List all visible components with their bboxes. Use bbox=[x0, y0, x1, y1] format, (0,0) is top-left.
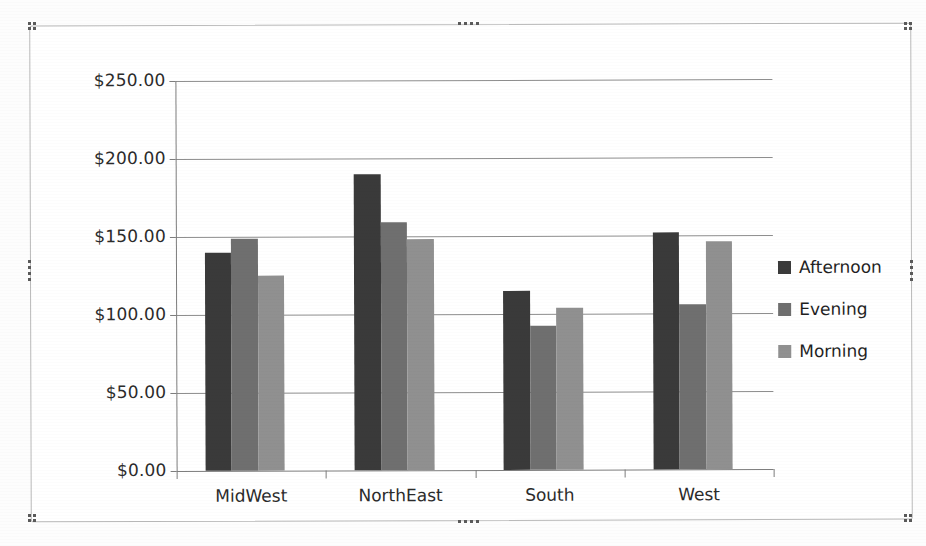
bar[interactable] bbox=[652, 232, 679, 469]
y-axis-tick-label: $50.00 bbox=[44, 382, 166, 402]
handle-dot bbox=[33, 22, 36, 25]
handle-dot bbox=[476, 520, 479, 523]
bar[interactable] bbox=[231, 238, 258, 471]
bar[interactable] bbox=[679, 304, 706, 469]
legend-item[interactable]: Morning bbox=[778, 330, 908, 372]
legend-swatch-icon bbox=[778, 344, 791, 357]
x-axis-category-label: NorthEast bbox=[326, 485, 475, 505]
handle-dot bbox=[28, 272, 31, 275]
gridline bbox=[176, 235, 773, 238]
handle-dot bbox=[28, 260, 31, 263]
handle-dot bbox=[909, 22, 912, 25]
x-axis-tick bbox=[624, 470, 625, 478]
handle-dot bbox=[909, 519, 912, 522]
handle-dot bbox=[470, 22, 473, 25]
y-axis-tick-label: $0.00 bbox=[45, 460, 167, 480]
handle-dot bbox=[910, 272, 913, 275]
legend-item-label: Evening bbox=[799, 299, 867, 319]
handle-dot bbox=[909, 514, 912, 517]
gridlines bbox=[175, 79, 772, 81]
y-axis-tick-label: $150.00 bbox=[44, 226, 166, 246]
handle-dot bbox=[458, 22, 461, 25]
x-axis-tick bbox=[475, 470, 476, 478]
bar[interactable] bbox=[530, 326, 557, 470]
handle-dot bbox=[470, 520, 473, 523]
handle-dot bbox=[33, 27, 36, 30]
handle-dot bbox=[28, 22, 31, 25]
x-axis-category-label: MidWest bbox=[177, 485, 326, 505]
y-axis-tick bbox=[170, 237, 176, 238]
bar[interactable] bbox=[706, 241, 733, 469]
chart-object[interactable]: $0.00$50.00$100.00$150.00$200.00$250.00 … bbox=[29, 23, 913, 523]
handle-dot bbox=[464, 22, 467, 25]
handle-dot bbox=[904, 519, 907, 522]
legend-item-label: Afternoon bbox=[799, 257, 882, 277]
legend-swatch-icon bbox=[778, 260, 791, 273]
handle-dot bbox=[28, 266, 31, 269]
x-axis-tick bbox=[774, 469, 775, 477]
bar[interactable] bbox=[503, 290, 530, 469]
handle-dot bbox=[904, 27, 907, 30]
plot-area: $0.00$50.00$100.00$150.00$200.00$250.00 … bbox=[175, 79, 773, 471]
legend-item[interactable]: Evening bbox=[778, 288, 908, 330]
handle-dot bbox=[476, 22, 479, 25]
legend-item-label: Morning bbox=[799, 341, 868, 361]
handle-dot bbox=[910, 260, 913, 263]
handle-dot bbox=[33, 514, 36, 517]
bar[interactable] bbox=[380, 222, 407, 470]
handle-dot bbox=[28, 278, 31, 281]
gridline bbox=[176, 157, 773, 160]
handle-dot bbox=[904, 22, 907, 25]
bar[interactable] bbox=[354, 174, 381, 470]
handle-dot bbox=[28, 514, 31, 517]
handle-dot bbox=[904, 514, 907, 517]
y-axis-tick-label: $250.00 bbox=[43, 70, 165, 90]
handle-dot bbox=[910, 278, 913, 281]
bar[interactable] bbox=[205, 252, 232, 470]
y-axis-tick bbox=[170, 159, 176, 160]
chart-legend[interactable]: AfternoonEveningMorning bbox=[778, 246, 908, 372]
handle-dot bbox=[910, 266, 913, 269]
handle-dot bbox=[458, 520, 461, 523]
handle-dot bbox=[28, 27, 31, 30]
x-axis-category-label: South bbox=[475, 485, 624, 505]
handle-dot bbox=[28, 519, 31, 522]
bar[interactable] bbox=[407, 239, 434, 470]
bar[interactable] bbox=[556, 307, 583, 469]
handle-dot bbox=[909, 27, 912, 30]
y-axis-tick-label: $100.00 bbox=[44, 304, 166, 324]
y-axis-tick-label: $200.00 bbox=[44, 148, 166, 168]
y-axis-tick bbox=[169, 81, 175, 82]
gridline bbox=[175, 79, 772, 82]
y-axis-tick bbox=[170, 393, 176, 394]
bar[interactable] bbox=[258, 276, 285, 471]
x-axis-category-label: West bbox=[624, 484, 773, 504]
legend-swatch-icon bbox=[778, 302, 791, 315]
x-axis-tick bbox=[326, 470, 327, 478]
y-axis-tick bbox=[170, 315, 176, 316]
y-axis-line bbox=[175, 81, 177, 471]
x-axis-tick bbox=[177, 471, 178, 479]
handle-dot bbox=[33, 519, 36, 522]
handle-dot bbox=[464, 520, 467, 523]
scanned-page: $0.00$50.00$100.00$150.00$200.00$250.00 … bbox=[0, 0, 926, 546]
legend-item[interactable]: Afternoon bbox=[778, 246, 908, 288]
